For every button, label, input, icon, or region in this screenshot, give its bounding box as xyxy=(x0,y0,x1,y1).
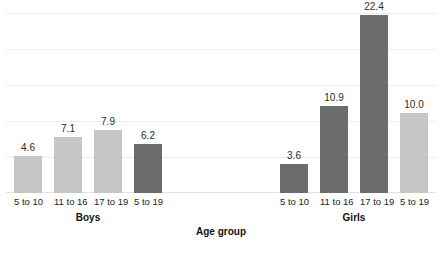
x-tick-label: 5 to 10 xyxy=(14,193,42,211)
bar-slot: 6.2 xyxy=(134,0,162,193)
axis-group-boys: 5 to 1011 to 1617 to 195 to 19Boys xyxy=(14,193,162,225)
bar-slot: 22.4 xyxy=(360,0,388,193)
bar-chart: 4.67.17.96.23.610.922.410.0 5 to 1011 to… xyxy=(0,0,442,253)
bar[interactable] xyxy=(280,164,308,193)
bar[interactable] xyxy=(400,113,428,193)
bar[interactable] xyxy=(134,144,162,193)
bar-slot: 4.6 xyxy=(14,0,42,193)
bar-value-label: 6.2 xyxy=(141,130,155,142)
bar-group-girls: 3.610.922.410.0 xyxy=(280,0,428,193)
bar[interactable] xyxy=(360,15,388,193)
bar-value-label: 4.6 xyxy=(21,142,35,154)
bar-value-label: 3.6 xyxy=(287,150,301,162)
bar-value-label: 10.9 xyxy=(324,92,343,104)
tick-label-row: 5 to 1011 to 1617 to 195 to 19 xyxy=(14,193,162,211)
bar-group-boys: 4.67.17.96.2 xyxy=(14,0,162,193)
x-tick-label: 17 to 19 xyxy=(360,193,388,211)
x-tick-label: 5 to 19 xyxy=(134,193,162,211)
x-tick-label: 17 to 19 xyxy=(94,193,122,211)
tick-label-row: 5 to 1011 to 1617 to 195 to 19 xyxy=(280,193,428,211)
bar-value-label: 10.0 xyxy=(404,99,423,111)
bar[interactable] xyxy=(94,130,122,193)
axis-group-girls: 5 to 1011 to 1617 to 195 to 19Girls xyxy=(280,193,428,225)
x-axis: 5 to 1011 to 1617 to 195 to 19Boys5 to 1… xyxy=(0,193,442,225)
bar[interactable] xyxy=(54,137,82,193)
bar-value-label: 22.4 xyxy=(364,1,383,13)
group-label: Girls xyxy=(343,211,366,225)
bar-slot: 7.1 xyxy=(54,0,82,193)
bar-value-label: 7.1 xyxy=(61,123,75,135)
bar-slot: 7.9 xyxy=(94,0,122,193)
bar-slot: 3.6 xyxy=(280,0,308,193)
group-label: Boys xyxy=(76,211,100,225)
bar-value-label: 7.9 xyxy=(101,116,115,128)
bar-groups: 4.67.17.96.23.610.922.410.0 xyxy=(0,0,442,193)
x-axis-title: Age group xyxy=(0,226,442,237)
x-tick-label: 11 to 16 xyxy=(54,193,82,211)
x-tick-label: 5 to 19 xyxy=(400,193,428,211)
x-tick-label: 5 to 10 xyxy=(280,193,308,211)
bar[interactable] xyxy=(320,106,348,193)
bar-slot: 10.9 xyxy=(320,0,348,193)
x-tick-label: 11 to 16 xyxy=(320,193,348,211)
bar-slot: 10.0 xyxy=(400,0,428,193)
bar[interactable] xyxy=(14,156,42,193)
